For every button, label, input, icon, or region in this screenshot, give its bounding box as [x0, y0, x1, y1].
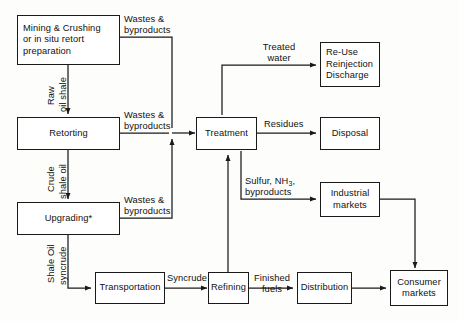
- edge-label-wastes-mining-line1: Wastes &: [124, 14, 184, 25]
- node-retorting[interactable]: Retorting: [17, 117, 120, 150]
- node-consumer-line2: markets: [402, 288, 436, 299]
- edge-label-treated-water: Treated water: [248, 42, 310, 65]
- node-disposal-label: Disposal: [332, 128, 368, 139]
- node-reuse-line3: Discharge: [326, 70, 369, 81]
- sulfur-subscript: 3: [288, 180, 292, 187]
- node-treatment-label: Treatment: [205, 128, 248, 139]
- edge-label-wastes-upgrading-line2: byproducts: [124, 206, 184, 217]
- edge-label-finished-fuels: Finished fuels: [250, 273, 294, 296]
- node-refining[interactable]: Refining: [208, 272, 249, 304]
- node-reuse-reinjection-discharge[interactable]: Re-Use Reinjection Discharge: [320, 42, 380, 87]
- node-retorting-label: Retorting: [49, 128, 88, 139]
- edge-label-sulfur-line2: byproducts: [245, 187, 317, 198]
- edge-label-wastes-mining-line2: byproducts: [124, 25, 184, 36]
- sulfur-text: Sulfur, NH: [245, 176, 288, 186]
- node-refining-label: Refining: [211, 282, 246, 293]
- flowchart-diagram: Mining & Crushing or in situ retort prep…: [0, 0, 459, 321]
- node-treatment[interactable]: Treatment: [196, 117, 257, 150]
- edge-label-wastes-retorting: Wastes & byproducts: [124, 110, 184, 133]
- edge-label-shale-oil-syncrude-line1: Shale Oil: [46, 244, 57, 283]
- node-mining-line1: Mining & Crushing: [23, 23, 101, 34]
- node-transportation[interactable]: Transportation: [95, 272, 165, 304]
- node-reuse-line2: Reinjection: [326, 59, 373, 70]
- node-upgrading[interactable]: Upgrading*: [17, 202, 120, 235]
- edge-label-raw-oil-shale-line1: Raw: [46, 86, 57, 105]
- node-mining-line2: or in situ retort: [23, 34, 84, 45]
- edge-label-wastes-upgrading-line1: Wastes &: [124, 195, 184, 206]
- edge-label-sulfur-byproducts: Sulfur, NH3, byproducts: [245, 176, 317, 199]
- edge-label-raw-oil-shale-line2: oil shale: [58, 77, 69, 112]
- edge-label-sulfur-line1: Sulfur, NH3,: [245, 176, 317, 187]
- edge-label-shale-oil-syncrude-line2: syncrude: [58, 246, 69, 285]
- edge-label-finished-fuels-line2: fuels: [250, 284, 294, 295]
- node-mining-line3: preparation: [23, 46, 71, 57]
- connector-treatment-to-reuse: [222, 65, 316, 115]
- node-industrial-line2: markets: [333, 200, 367, 211]
- edge-label-crude-shale-oil-line2: shale oil: [58, 164, 69, 199]
- node-distribution[interactable]: Distribution: [297, 272, 352, 304]
- node-industrial-line1: Industrial: [331, 188, 370, 199]
- edge-label-finished-fuels-line1: Finished: [250, 273, 294, 284]
- connector-industrial-to-consumer-markets: [380, 199, 415, 268]
- edge-label-treated-water-line1: Treated: [248, 42, 310, 53]
- node-consumer-markets[interactable]: Consumer markets: [390, 270, 448, 306]
- sulfur-comma: ,: [292, 176, 295, 186]
- edge-label-crude-shale-oil-line1: Crude: [46, 166, 57, 192]
- node-disposal[interactable]: Disposal: [320, 117, 380, 150]
- node-reuse-line1: Re-Use: [326, 47, 358, 58]
- edge-label-wastes-retorting-line1: Wastes &: [124, 110, 184, 121]
- node-transportation-label: Transportation: [100, 282, 161, 293]
- edge-label-wastes-mining: Wastes & byproducts: [124, 14, 184, 37]
- connector-upgrading-to-transportation: [68, 235, 91, 288]
- edge-label-syncrude: Syncrude: [163, 273, 211, 284]
- node-mining-crushing[interactable]: Mining & Crushing or in situ retort prep…: [17, 15, 120, 65]
- edge-label-treated-water-line2: water: [248, 53, 310, 64]
- node-consumer-line1: Consumer: [397, 277, 441, 288]
- edge-label-residues: Residues: [264, 119, 319, 130]
- edge-label-wastes-retorting-line2: byproducts: [124, 121, 184, 132]
- node-upgrading-label: Upgrading*: [45, 213, 93, 224]
- edge-label-wastes-upgrading: Wastes & byproducts: [124, 195, 184, 218]
- node-distribution-label: Distribution: [301, 282, 349, 293]
- node-industrial-markets[interactable]: Industrial markets: [320, 182, 380, 217]
